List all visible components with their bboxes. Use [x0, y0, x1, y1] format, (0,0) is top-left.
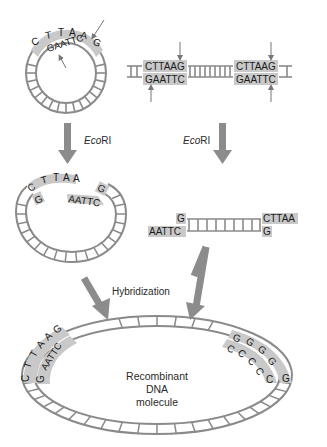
fragment-right-bottom: G [263, 226, 271, 237]
site-left-top: CTTAAG [145, 61, 185, 72]
rec-left-outer-c: C [20, 375, 31, 382]
cut-arrow-icon [60, 57, 66, 68]
cut-top-left-a1: A [63, 172, 70, 183]
fragment-right-top: CTTAA [263, 213, 295, 224]
plasmid-top-strand-t2: T [58, 27, 64, 38]
fragment-left-top: G [177, 213, 185, 224]
process-arrow-icon [213, 123, 232, 164]
enzyme-label-left: EcoRI [84, 135, 111, 146]
cut-arrow-icon [93, 20, 104, 37]
cut-top-left-a2: A [73, 173, 80, 184]
recombinant-label-line1: Recombinant [126, 370, 188, 382]
hybridization-arrow-right-icon [186, 247, 206, 320]
hybridization-label: Hybridization [112, 286, 170, 297]
site-right-top: CTTAAG [236, 61, 276, 72]
dna-fragment [187, 219, 261, 231]
recombinant-dna-diagram: C T T A A G GAATTC CTTAAG GAATTC CTTAAG … [0, 0, 327, 447]
site-right-bottom: GAATTC [236, 74, 276, 85]
plasmid-top-strand-t1: T [44, 29, 52, 41]
rec-right-inner-c5: C [266, 374, 273, 385]
site-left-bottom: GAATTC [145, 74, 185, 85]
rec-right-outer-g5: G [282, 373, 290, 384]
cut-top-left-t2: T [53, 172, 59, 183]
cut-bottom-left: G [33, 193, 45, 206]
recombinant-label-line3: molecule [136, 396, 178, 408]
enzyme-label-right: EcoRI [183, 135, 210, 146]
cut-bottom-right: AATTC [68, 193, 101, 208]
rec-left-inner-g: G [35, 375, 46, 383]
hybridization-arrow-left-icon [84, 278, 110, 320]
recombinant-label-line2: DNA [146, 383, 168, 395]
process-arrow-icon [58, 123, 77, 164]
fragment-left-bottom: AATTC [149, 226, 181, 237]
